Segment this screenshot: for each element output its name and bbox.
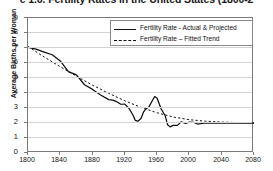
x-tick-mark <box>156 152 157 155</box>
legend-solid-line-swatch <box>114 26 136 32</box>
legend-item-label: Fertility Rate - Actual & Projected <box>140 25 237 32</box>
y-tick-label: 7 <box>0 43 18 51</box>
chart-title: e 1.6. Fertility Rates in the United Sta… <box>0 0 273 5</box>
legend-item-label: Fertility Rate – Fitted Trend <box>140 36 220 43</box>
gridline <box>28 122 252 123</box>
y-tick-label: 9 <box>0 14 18 22</box>
x-tick-mark <box>92 152 93 155</box>
y-tick-label: 5 <box>0 73 18 81</box>
x-tick-label: 2080 <box>233 156 273 163</box>
gridline <box>28 77 252 78</box>
y-tick-label: 4 <box>0 88 18 96</box>
y-tick-label: 1 <box>0 133 18 141</box>
y-tick-label: 0 <box>0 148 18 156</box>
x-tick-mark <box>188 152 189 155</box>
x-tick-mark <box>221 152 222 155</box>
gridline <box>28 107 252 108</box>
gridline <box>28 92 252 93</box>
gridline <box>28 47 252 48</box>
actual-projected-line <box>28 47 254 127</box>
legend-dashed-line-swatch <box>114 37 136 43</box>
y-tick-label: 6 <box>0 58 18 66</box>
x-tick-mark <box>124 152 125 155</box>
y-axis-title: Average Births per Woman <box>10 9 17 99</box>
legend: Fertility Rate - Actual & Projected Fert… <box>110 20 253 46</box>
fertility-rate-chart-figure: e 1.6. Fertility Rates in the United Sta… <box>0 0 273 171</box>
x-tick-mark <box>27 152 28 155</box>
x-tick-mark <box>59 152 60 155</box>
legend-item-fitted-trend: Fertility Rate – Fitted Trend <box>114 34 252 45</box>
gridline <box>28 137 252 138</box>
x-tick-mark <box>253 152 254 155</box>
gridline <box>28 62 252 63</box>
fitted-trend-line <box>28 47 254 123</box>
y-tick-label: 3 <box>0 103 18 111</box>
legend-item-actual-projected: Fertility Rate - Actual & Projected <box>114 23 252 34</box>
y-tick-label: 8 <box>0 28 18 36</box>
y-tick-label: 2 <box>0 118 18 126</box>
